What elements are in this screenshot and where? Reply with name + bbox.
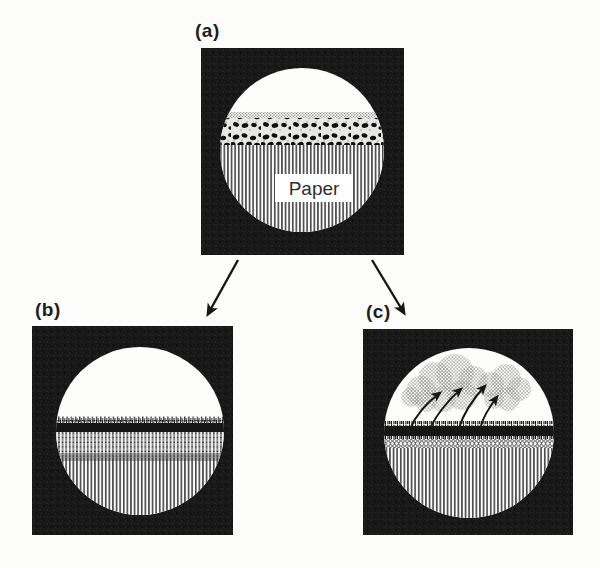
paper-label: Paper [289,178,340,199]
toner-band [363,426,573,436]
arrow-a-to-b-icon [208,260,238,314]
rough-edge-bottom [363,436,573,439]
panel-c-diagram [363,329,573,535]
panel-a-label: (a) [195,21,220,40]
panel-b-label: (b) [35,300,61,319]
panel-b-diagram [32,326,233,535]
fused-toner-band [32,423,233,432]
panel-a-diagram: Paper [201,48,404,255]
toner-particle-band [201,118,404,146]
stipple-row [363,439,573,448]
figure: (a) (b) (c) Paper [0,0,600,568]
dark-smudge-line [32,453,233,461]
rough-edge-top [363,421,573,426]
halftone-strip [201,112,404,119]
panel-c-label: (c) [366,302,391,321]
